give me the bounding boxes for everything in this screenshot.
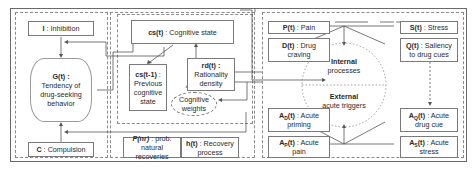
symbol-suffix: (t) [418,138,425,147]
stress-box: S(t) : Stress [400,21,458,34]
recovery-line2: process [197,148,222,157]
acute-stress-box: AS(t) : Acute stress [400,136,458,158]
pain-symbol: P(t) [283,23,295,32]
compulsion-label: Compulsion [48,145,86,154]
weights-line1: Cognitive [179,95,209,104]
internal-processes-label: Internal processes [314,57,374,75]
stress-symbol: S(t) [410,23,422,32]
previous-state-line2: cognitive [134,88,162,97]
saliency-symbol: Q(t) [406,41,419,50]
tendency-line2: drug-seeking [40,90,82,99]
previous-state-line3: state [140,97,156,106]
previous-state-line1: Previous [134,79,162,88]
tendency-line1: Tendency of [42,81,81,90]
natural-recoveries-symbol: P(nr) [132,134,149,143]
saliency-line2: to drug cues [409,50,449,59]
pain-label: Pain [301,23,315,32]
saliency-box: Q(t) : Saliency to drug cues [400,38,458,62]
previous-state-symbol: cs(t-1) [135,70,157,79]
internal-text: processes [328,66,361,75]
craving-line2: craving [287,50,310,59]
cognitive-state-box: cs(t) : Cognitive state [131,20,234,44]
acute-drug-cue-line2: drug cue [415,120,443,129]
separator: : Recovery [198,139,234,148]
acute-drug-cue-box: AQ(t) : Acute drug cue [400,108,458,132]
symbol-suffix: (t) [288,138,295,147]
separator: : Saliency [419,41,452,50]
weights-line2: weights [182,104,206,113]
cognitive-state-label: Cognitive state [169,28,217,37]
separator: : Acute [425,138,449,147]
acute-pain-line2: pain [292,147,306,156]
separator: : Acute [295,111,319,120]
rationality-symbol: rd(t) : [202,61,221,70]
inhibition-label: Inhibition [51,24,80,33]
symbol-suffix: (t) [288,111,295,120]
recovery-symbol: h(t) [186,139,198,148]
external-bold: External [330,92,358,101]
cognitive-weights-ellipse: Cognitive weights [171,92,217,116]
acute-priming-box: AD(t) : Acute priming [268,108,330,132]
separator: : Drug [294,41,316,50]
recovery-process-box: h(t) : Recovery process [181,137,239,158]
rationality-line1: Rationality [194,70,228,79]
rationality-line2: density [200,79,223,88]
separator: : prob. [149,134,171,143]
tendency-symbol: G(t) : [52,72,69,81]
pain-box: P(t) : Pain [268,21,330,34]
rationality-box: rd(t) : Rationality density [187,58,235,91]
inhibition-box: I : Inhibition [28,21,94,36]
separator: : [157,70,161,79]
separator: : Acute [425,111,449,120]
acute-priming-line2: priming [287,120,311,129]
natural-recoveries-line2: natural recoveries [124,143,180,161]
stress-label: Stress [428,23,448,32]
tendency-line3: behavior [47,99,75,108]
tendency-box: G(t) : Tendency of drug-seeking behavior [30,58,92,122]
natural-recoveries-box: P(nr) : prob. natural recoveries [123,137,181,158]
cognitive-state-symbol: cs(t) [148,28,163,37]
previous-state-box: cs(t-1) : Previous cognitive state [129,64,167,111]
craving-symbol: D(t) [282,41,294,50]
compulsion-box: C : Compulsion [28,142,94,157]
separator: : Acute [295,138,319,147]
acute-pain-box: AP(t) : Acute pain [268,136,330,158]
internal-bold: Internal [331,57,357,66]
acute-stress-line2: stress [419,147,438,156]
